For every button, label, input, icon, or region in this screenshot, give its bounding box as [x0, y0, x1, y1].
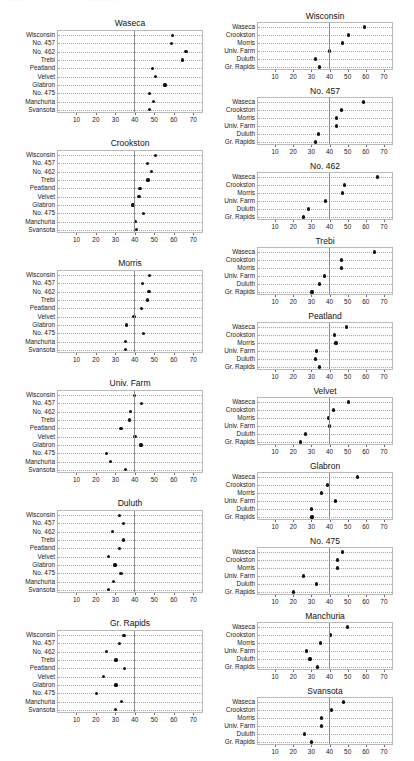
- y-axis-tick-label: Crookston: [226, 406, 255, 413]
- x-axis-tick-label: 60: [362, 373, 369, 380]
- data-point: [124, 348, 127, 351]
- y-axis-tick-label: Trebi: [41, 536, 55, 543]
- x-axis-tick: [293, 445, 294, 447]
- x-axis-tick: [115, 593, 116, 595]
- data-point: [142, 212, 145, 215]
- x-axis-tick: [174, 233, 175, 235]
- data-point: [107, 555, 110, 558]
- data-point: [138, 187, 141, 190]
- x-axis-tick: [311, 295, 312, 297]
- y-axis-tick-label: Manchuria: [25, 217, 55, 224]
- gridline-horizontal: [58, 693, 202, 694]
- panel-title: Peatland: [257, 311, 393, 321]
- y-axis-labels: WasecaCrookstonMorrisUniv. FarmDuluthGr.…: [212, 697, 255, 745]
- reference-line: [134, 31, 135, 112]
- x-axis-tick: [275, 445, 276, 447]
- data-point: [303, 732, 306, 735]
- x-axis: 10203040506070: [57, 113, 203, 127]
- y-axis-labels: WasecaCrookstonMorrisUniv. FarmDuluthGr.…: [212, 247, 255, 295]
- data-point: [318, 365, 321, 368]
- data-point: [152, 100, 155, 103]
- y-axis-tick-label: No. 457: [33, 639, 55, 646]
- chart-panel-waseca: WasecaWisconsinNo. 457No. 462TrebiPeatla…: [0, 18, 215, 127]
- gridline-horizontal: [258, 584, 392, 585]
- data-point: [148, 108, 151, 111]
- x-axis-tick: [384, 70, 385, 72]
- gridline-horizontal: [58, 163, 202, 164]
- gridline-horizontal: [258, 560, 392, 561]
- x-axis-tick-label: 60: [362, 748, 369, 755]
- x-axis-tick: [193, 113, 194, 115]
- x-axis: 10203040506070: [257, 445, 393, 459]
- gridline-horizontal: [58, 275, 202, 276]
- x-axis-tick-label: 10: [272, 748, 279, 755]
- y-axis-tick-label: Svansota: [28, 465, 55, 472]
- data-point: [310, 515, 313, 518]
- x-axis-tick-label: 40: [131, 236, 138, 243]
- reference-line: [329, 173, 330, 219]
- x-axis-tick-label: 70: [380, 298, 387, 305]
- data-point: [336, 558, 339, 561]
- x-axis-tick: [330, 145, 331, 147]
- x-axis-tick: [275, 745, 276, 747]
- x-axis-tick-label: 40: [326, 748, 333, 755]
- x-axis-tick-label: 10: [272, 373, 279, 380]
- gridline-horizontal: [58, 582, 202, 583]
- data-point: [362, 100, 365, 103]
- x-axis-tick-label: 70: [190, 356, 197, 363]
- x-axis-tick-label: 30: [308, 73, 315, 80]
- data-point: [305, 649, 308, 652]
- gridline-horizontal: [58, 660, 202, 661]
- data-point: [181, 58, 184, 61]
- x-axis-tick-label: 20: [290, 523, 297, 530]
- data-point: [148, 92, 151, 95]
- x-axis-tick: [293, 595, 294, 597]
- x-axis-tick: [384, 745, 385, 747]
- y-axis-tick-label: No. 475: [33, 689, 55, 696]
- data-point: [341, 550, 344, 553]
- x-axis-tick: [348, 745, 349, 747]
- y-axis-tick-label: Manchuria: [25, 577, 55, 584]
- y-axis-tick-label: Duluth: [237, 280, 255, 287]
- chart-panel-morris: MorrisWisconsinNo. 457No. 462TrebiPeatla…: [0, 258, 215, 367]
- data-point: [142, 332, 145, 335]
- reference-line: [329, 323, 330, 369]
- gridline-horizontal: [258, 418, 392, 419]
- x-axis: 10203040506070: [257, 370, 393, 384]
- x-axis-tick: [174, 713, 175, 715]
- x-axis-tick-label: 20: [92, 716, 99, 723]
- data-point: [341, 41, 344, 44]
- panel-title: Waseca: [57, 18, 203, 28]
- gridline-horizontal: [58, 403, 202, 404]
- y-axis-tick-label: Univ. Farm: [224, 197, 255, 204]
- gridline-horizontal: [258, 292, 392, 293]
- x-axis-tick-label: 50: [151, 596, 158, 603]
- x-axis-tick: [154, 593, 155, 595]
- gridline-horizontal: [258, 493, 392, 494]
- y-axis-tick-label: Waseca: [232, 398, 255, 405]
- x-axis-tick: [384, 520, 385, 522]
- data-point: [316, 665, 319, 668]
- data-point: [118, 642, 121, 645]
- y-axis-tick-label: Velvet: [38, 672, 55, 679]
- x-axis-tick-label: 10: [272, 598, 279, 605]
- x-axis-tick-label: 40: [326, 148, 333, 155]
- gridline-horizontal: [258, 734, 392, 735]
- y-axis-tick-label: Waseca: [232, 548, 255, 555]
- chart-panel-trebi: TrebiWasecaCrookstonMorrisUniv. FarmDulu…: [212, 236, 405, 309]
- data-point: [323, 274, 326, 277]
- panel-title: Univ. Farm: [57, 378, 203, 388]
- gridline-horizontal: [58, 342, 202, 343]
- x-axis-tick: [275, 670, 276, 672]
- gridline-horizontal: [58, 573, 202, 574]
- data-point: [105, 452, 108, 455]
- y-axis-labels: WisconsinNo. 457No. 462TrebiPeatlandVelv…: [0, 390, 55, 473]
- data-point: [324, 199, 327, 202]
- x-axis-tick: [76, 473, 77, 475]
- gridline-horizontal: [258, 217, 392, 218]
- gridline-horizontal: [58, 222, 202, 223]
- y-axis-tick-label: Duluth: [237, 205, 255, 212]
- data-point: [120, 700, 123, 703]
- x-axis-tick: [135, 353, 136, 355]
- x-axis-tick-label: 20: [290, 298, 297, 305]
